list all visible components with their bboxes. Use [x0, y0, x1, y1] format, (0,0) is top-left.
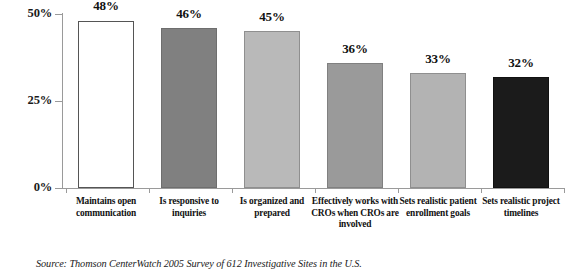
y-tick-25 — [55, 101, 63, 102]
y-axis-label-0: 0% — [8, 180, 52, 195]
x-tick-4 — [398, 188, 399, 193]
bar-value-sets-realistic-project-timelines: 32% — [493, 55, 549, 71]
x-axis-line — [55, 188, 565, 189]
x-tick-6 — [564, 188, 565, 193]
bar-sets-realistic-project-timelines — [493, 77, 549, 188]
bar-value-effectively-works-with-cros: 36% — [327, 41, 383, 57]
bar-is-organized-and-prepared — [244, 31, 300, 188]
bar-sets-realistic-patient-enrollment-goals — [410, 73, 466, 188]
y-tick-0 — [55, 188, 63, 189]
bar-maintains-open-communication — [78, 21, 134, 188]
x-axis-label-sets-realistic-patient-enrollment-goals: Sets realistic patient enrollment goals — [394, 196, 482, 219]
bar-value-sets-realistic-patient-enrollment-goals: 33% — [410, 51, 466, 67]
x-tick-0 — [66, 188, 67, 193]
bar-value-is-organized-and-prepared: 45% — [244, 9, 300, 25]
x-tick-1 — [149, 188, 150, 193]
x-tick-5 — [481, 188, 482, 193]
x-axis-label-is-responsive-to-inquiries: Is responsive to inquiries — [145, 196, 233, 219]
source-note: Source: Thomson CenterWatch 2005 Survey … — [36, 258, 362, 269]
x-axis-label-maintains-open-communication: Maintains open communication — [62, 196, 150, 219]
x-tick-3 — [315, 188, 316, 193]
y-axis-label-50: 50% — [8, 6, 52, 21]
x-axis-label-sets-realistic-project-timelines: Sets realistic project timelines — [477, 196, 565, 219]
plot-area: 50% 25% 0% 48% 46% 45% 36% 33% — [0, 0, 568, 200]
x-axis-label-effectively-works-with-cros: Effectively works with CROs when CROs ar… — [311, 196, 399, 231]
x-tick-2 — [232, 188, 233, 193]
bar-is-responsive-to-inquiries — [161, 28, 217, 188]
y-tick-50 — [55, 14, 63, 15]
bar-value-maintains-open-communication: 48% — [78, 0, 134, 14]
x-axis-label-is-organized-and-prepared: Is organized and prepared — [228, 196, 316, 219]
bar-chart: 50% 25% 0% 48% 46% 45% 36% 33% — [0, 0, 568, 277]
y-axis-label-25: 25% — [8, 93, 52, 108]
bar-value-is-responsive-to-inquiries: 46% — [161, 6, 217, 22]
bar-effectively-works-with-cros — [327, 63, 383, 188]
